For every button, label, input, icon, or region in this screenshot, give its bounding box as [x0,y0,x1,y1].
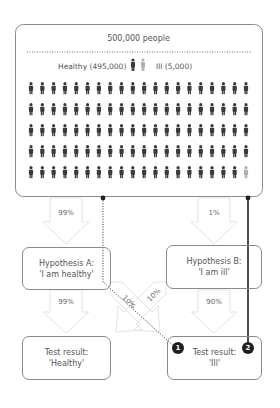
healthy-person-icon [131,82,135,94]
healthy-person-icon [52,166,56,178]
arrow-b-to-ill [191,290,237,333]
healthy-person-icon [108,166,112,178]
healthy-person-icon [233,82,237,94]
healthy-person-icon [108,124,112,136]
healthy-person-icon [40,103,44,115]
healthy-person-icon [199,124,203,136]
healthy-person-icon [142,124,146,136]
healthy-person-icon [85,103,89,115]
healthy-person-icon [165,103,169,115]
hypothesis-b-title: Hypothesis B: [167,256,261,267]
healthy-person-icon [142,82,146,94]
healthy-person-icon [142,145,146,157]
healthy-person-icon [176,166,180,178]
healthy-person-icon [119,145,123,157]
hypothesis-b-box: Hypothesis B: 'I am ill' [166,245,262,289]
healthy-person-icon [29,145,33,157]
healthy-person-icon [165,166,169,178]
healthy-person-icon [108,103,112,115]
healthy-person-icon [85,145,89,157]
legend-healthy-label: Healthy (495,000) [58,62,126,71]
healthy-person-icon [221,145,225,157]
healthy-person-icon [108,82,112,94]
healthy-person-icon [187,166,191,178]
healthy-person-icon [210,124,214,136]
ill-person-icon [244,166,248,178]
healthy-person-icon [74,145,78,157]
label-a-to-ill: 10% [121,294,138,311]
healthy-person-icon [233,103,237,115]
healthy-person-icon [199,82,203,94]
healthy-person-icon [29,82,33,94]
hypothesis-b-statement: 'I am ill' [167,267,261,278]
healthy-person-icon [119,166,123,178]
healthy-person-icon [119,103,123,115]
badge-2: 2 [242,342,254,354]
healthy-person-icon [221,82,225,94]
arrow-to-hypothesis-b [191,198,237,244]
healthy-person-icon [63,145,67,157]
hypothesis-a-box: Hypothesis A: 'I am healthy' [22,247,111,290]
hypothesis-a-statement: 'I am healthy' [23,269,110,280]
healthy-person-icon [131,145,135,157]
healthy-person-icon [210,82,214,94]
healthy-person-icon [52,103,56,115]
result-healthy-title: Test result: [23,347,110,358]
result-healthy-value: 'Healthy' [23,358,110,369]
healthy-person-icon [187,124,191,136]
arrow-to-hypothesis-a [43,198,89,244]
healthy-person-icon [233,145,237,157]
healthy-person-icon [210,103,214,115]
healthy-person-icon [29,103,33,115]
healthy-person-icon [131,166,135,178]
healthy-person-icon [119,124,123,136]
healthy-person-icon [40,124,44,136]
healthy-person-icon [63,166,67,178]
healthy-person-icon [97,82,101,94]
healthy-person-icon [176,145,180,157]
label-b-to-healthy: 10% [146,287,163,304]
healthy-person-icon [85,166,89,178]
healthy-person-icon [52,124,56,136]
healthy-person-icon [165,145,169,157]
legend-ill-label: Ill (5,000) [156,62,192,71]
healthy-person-icon [108,145,112,157]
healthy-person-icon [244,103,248,115]
healthy-person-icon [29,166,33,178]
healthy-person-icon [74,82,78,94]
healthy-person-icon [131,124,135,136]
healthy-person-icon [187,103,191,115]
label-to-hypothesis-b: 1% [198,209,230,217]
healthy-person-icon [97,166,101,178]
healthy-person-icon [40,145,44,157]
healthy-person-icon [187,145,191,157]
result-healthy-box: Test result: 'Healthy' [22,336,111,380]
healthy-person-icon [63,103,67,115]
healthy-person-icon [244,82,248,94]
healthy-person-icon [233,124,237,136]
healthy-person-icon [29,124,33,136]
healthy-person-icon [40,166,44,178]
legend-healthy-person-icon [131,58,135,71]
healthy-person-icon [199,145,203,157]
healthy-person-icon [74,124,78,136]
healthy-person-icon [97,103,101,115]
healthy-person-icon [199,166,203,178]
result-ill-value: 'Ill' [168,358,261,369]
healthy-person-icon [119,82,123,94]
healthy-person-icon [153,103,157,115]
healthy-person-icon [210,145,214,157]
label-b-to-ill: 90% [198,298,230,306]
healthy-person-icon [85,124,89,136]
healthy-person-icon [63,82,67,94]
label-a-to-healthy: 99% [50,298,82,306]
healthy-person-icon [97,124,101,136]
healthy-person-icon [187,82,191,94]
healthy-person-icon [153,124,157,136]
healthy-person-icon [165,82,169,94]
healthy-person-icon [199,103,203,115]
population-title: 500,000 people [15,34,262,43]
healthy-person-icon [165,124,169,136]
healthy-person-icon [142,103,146,115]
people-grid [29,82,248,178]
